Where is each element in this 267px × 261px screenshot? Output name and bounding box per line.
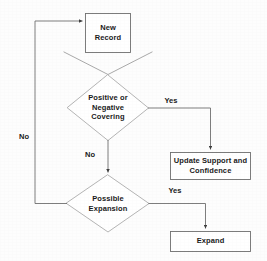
node-expand-line1: Expand [171,236,250,246]
node-expansion-decision-line2: Expansion [70,204,146,214]
node-update-support-label: Update Support and Confidence [171,156,250,175]
flowchart-canvas: New Record Positive or Negative Covering… [0,0,267,261]
edge-new-record-to-covering [64,52,152,75]
edge-label-covering-no: No [81,150,99,159]
node-new-record-line2: Record [86,33,130,43]
node-covering-decision-line1: Positive or [70,93,146,103]
node-new-record-label: New Record [86,23,130,42]
node-expansion-decision-line1: Possible [70,194,146,204]
node-covering-decision-label: Positive or Negative Covering [70,93,146,122]
node-new-record-line1: New [86,23,130,33]
edge-expansion-yes [149,204,206,229]
edge-label-covering-yes: Yes [158,96,184,105]
node-update-support-line2: Confidence [171,166,250,176]
node-update-support-line1: Update Support and [171,156,250,166]
flowchart-connectors [0,0,267,261]
edge-label-loop-no: No [15,132,33,141]
node-expansion-decision-label: Possible Expansion [70,194,146,213]
edge-label-expansion-yes: Yes [162,186,188,195]
node-expand-label: Expand [171,236,250,246]
edge-covering-yes [149,108,211,149]
node-covering-decision-line2: Negative [70,103,146,113]
node-covering-decision-line3: Covering [70,112,146,122]
